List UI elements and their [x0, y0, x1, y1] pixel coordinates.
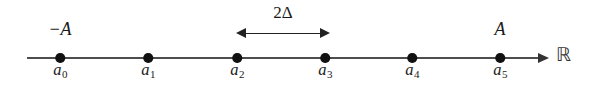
point-label-a1: a1 — [141, 62, 155, 79]
point-label-a3: a3 — [318, 62, 332, 79]
point-label-a4: a4 — [405, 62, 419, 79]
endpoint-label-minus-A: −A — [48, 20, 71, 38]
point-label-a0-subscript: 0 — [62, 68, 68, 80]
real-numbers-symbol: ℝ — [556, 45, 571, 64]
point-label-a2-subscript: 2 — [239, 68, 245, 80]
measure-label-two-delta: 2Δ — [273, 4, 292, 21]
real-line-axis — [27, 57, 542, 59]
point-label-a0-letter: a — [53, 60, 61, 79]
point-label-a1-subscript: 1 — [150, 68, 156, 80]
measure-arrow-shaft — [240, 33, 326, 35]
measure-arrowhead-right-icon — [320, 28, 330, 38]
point-label-a0: a0 — [53, 62, 67, 79]
point-label-a1-letter: a — [141, 60, 149, 79]
point-label-a5-letter: a — [493, 60, 501, 79]
point-label-a4-letter: a — [405, 60, 413, 79]
point-label-a3-subscript: 3 — [327, 68, 333, 80]
endpoint-label-A: A — [495, 20, 506, 38]
axis-arrowhead-icon — [538, 53, 549, 63]
real-line-figure: ℝ −A A 2Δ a0 a1 a2 a3 a4 a5 — [0, 0, 599, 86]
point-label-a5-subscript: 5 — [502, 68, 508, 80]
point-label-a5: a5 — [493, 62, 507, 79]
point-label-a2-letter: a — [230, 60, 238, 79]
point-label-a3-letter: a — [318, 60, 326, 79]
point-label-a2: a2 — [230, 62, 244, 79]
point-label-a4-subscript: 4 — [414, 68, 420, 80]
measure-arrowhead-left-icon — [236, 28, 246, 38]
